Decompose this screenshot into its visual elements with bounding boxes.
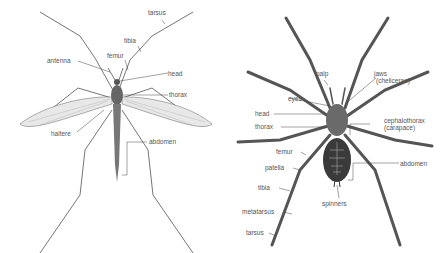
label-spider-patella: patella: [265, 164, 284, 171]
label-spider-jaws: jaws: [374, 70, 387, 77]
label-spider-femur: femur: [276, 148, 293, 155]
label-crane-fly-abdomen: abdomen: [149, 138, 176, 145]
crane-fly-thorax: [111, 85, 123, 105]
label-spider-metatarsus: metatarsus: [242, 208, 274, 215]
crane-fly-abdomen: [113, 104, 121, 182]
label-crane-fly-tarsus: tarsus: [148, 9, 166, 16]
label-spider-cephalothorax: cephalothorax: [384, 117, 425, 124]
label-spider-carapace: (carapace): [384, 124, 415, 131]
label-spider-tarsus: tarsus: [246, 229, 264, 236]
left-wing: [20, 97, 112, 127]
label-spider-abdomen: abdomen: [400, 160, 427, 167]
anatomy-illustrations: [0, 0, 440, 253]
label-crane-fly-thorax: thorax: [169, 91, 187, 98]
spider-cephalothorax: [326, 104, 348, 136]
label-crane-fly-tibia: tibia: [124, 37, 136, 44]
label-spider-tibia: tibia: [258, 184, 270, 191]
label-crane-fly-antenna: antenna: [47, 57, 71, 64]
label-spider-spinners: spinners: [322, 200, 347, 207]
label-crane-fly-femur: femur: [107, 52, 124, 59]
label-spider-palp: palp: [316, 70, 328, 77]
label-crane-fly-head: head: [168, 70, 182, 77]
label-spider-chelicerae: (chelicerae): [376, 77, 410, 84]
label-spider-eyes: eyes: [288, 95, 302, 102]
label-spider-thorax: thorax: [255, 123, 273, 130]
label-spider-head: head: [255, 110, 269, 117]
right-wing: [122, 97, 212, 127]
crane-fly-head: [114, 79, 120, 85]
label-crane-fly-haltere: haltere: [51, 130, 71, 137]
